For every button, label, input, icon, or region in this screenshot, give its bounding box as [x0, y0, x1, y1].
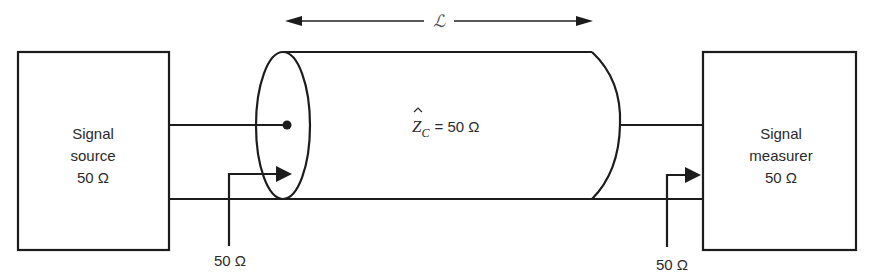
signal-source-box: Signal source 50 Ω	[18, 52, 169, 250]
source-label-line-3: 50 Ω	[77, 169, 109, 186]
input-impedance-arrow-line	[229, 174, 278, 246]
impedance-subscript: C	[421, 126, 430, 140]
measurer-label-line-1: Signal	[760, 125, 802, 142]
measurer-label-line-3: 50 Ω	[765, 169, 797, 186]
length-arrowhead-left	[285, 16, 302, 26]
input-impedance-indicator: 50 Ω	[214, 166, 292, 269]
length-label: ℒ	[433, 11, 446, 31]
output-impedance-arrow-line	[667, 175, 687, 247]
impedance-hat-icon	[414, 108, 422, 112]
wires	[169, 125, 703, 199]
characteristic-impedance-label: ZC= 50 Ω	[412, 117, 479, 140]
coaxial-line: ZC= 50 Ω	[256, 52, 620, 199]
transmission-line-diagram: ℒ Signal source 50 Ω Signal measurer 50 …	[0, 0, 869, 280]
input-impedance-label: 50 Ω	[214, 252, 246, 269]
length-arrowhead-right	[576, 16, 593, 26]
source-label-line-1: Signal	[72, 125, 114, 142]
output-impedance-arrowhead	[685, 167, 701, 183]
cable-right-end	[592, 52, 620, 199]
signal-measurer-box: Signal measurer 50 Ω	[703, 52, 856, 250]
input-impedance-arrowhead	[276, 166, 292, 182]
measurer-label-line-2: measurer	[749, 147, 812, 164]
length-dimension: ℒ	[285, 11, 593, 31]
impedance-value: = 50 Ω	[434, 118, 479, 135]
output-impedance-label: 50 Ω	[656, 256, 688, 273]
source-label-line-2: source	[70, 147, 115, 164]
output-impedance-indicator: 50 Ω	[656, 167, 701, 273]
